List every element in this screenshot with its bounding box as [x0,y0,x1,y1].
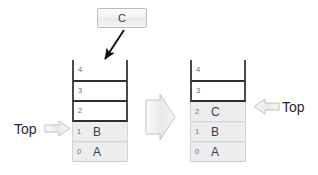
stack-before-push: 4 3 2 1 B 0 A [72,60,128,162]
cell-index: 0 [195,148,209,156]
arrow-overlay [0,0,318,175]
top-pointer-label-left: Top [14,122,37,136]
stack-cell: 1 B [72,122,128,142]
cell-index: 2 [195,108,209,116]
cell-index: 1 [195,128,209,136]
cell-index: 1 [77,128,91,136]
incoming-element-box: C [97,8,147,28]
stack-push-diagram: C 4 3 2 1 B 0 A 4 3 [0,0,318,175]
cell-index: 4 [196,66,210,74]
top-pointer-label-right: Top [282,100,305,114]
stack-cell: 4 [72,60,128,82]
cell-value: B [211,126,219,138]
incoming-element-label: C [118,13,126,24]
stack-cell: 3 [190,82,246,102]
top-pointer-arrow-right-icon [254,99,279,114]
stack-cell: 2 C [190,102,246,122]
cell-value: B [93,126,101,138]
cell-index: 4 [78,66,92,74]
cell-index: 3 [78,87,92,95]
push-arrow-icon [105,30,124,59]
cell-value: A [93,146,101,158]
cell-index: 2 [78,107,92,115]
stack-cell: 0 A [190,142,246,162]
stack-cell: 1 B [190,122,246,142]
cell-index: 3 [196,87,210,95]
stack-cell: 3 [72,82,128,102]
cell-value: C [211,106,220,118]
stack-cell: 4 [190,60,246,82]
cell-index: 0 [77,148,91,156]
cell-value: A [211,146,219,158]
stack-cell: 0 A [72,142,128,162]
stack-after-push: 4 3 2 C 1 B 0 A [190,60,246,162]
stack-cell: 2 [72,102,128,122]
top-pointer-arrow-left-icon [45,121,70,136]
transition-arrow-icon [146,94,175,140]
